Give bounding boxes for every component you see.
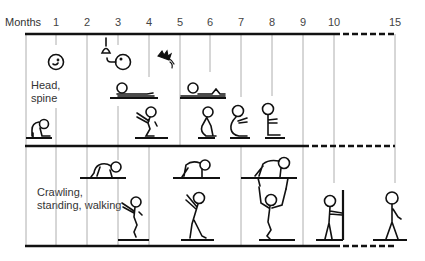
infant-sitting-reaching-icon — [231, 106, 247, 137]
infant-supported-standing-icon — [186, 193, 206, 239]
infant-sitting-supported-icon — [202, 107, 217, 136]
development-diagram — [0, 0, 425, 261]
infant-hands-knees-icon — [255, 158, 290, 178]
toddler-walking-icon — [386, 192, 401, 239]
infant-sitting-upright-icon — [263, 104, 281, 136]
infant-forearm-prone-icon — [117, 83, 154, 96]
infant-creeping-icon — [91, 162, 121, 177]
infant-held-standing-icon — [122, 197, 142, 237]
infant-face-turning-icon — [116, 55, 131, 70]
infant-crawling-icon — [182, 160, 210, 177]
infant-pulled-sit-icon — [137, 107, 157, 136]
infant-standing-at-wall-icon — [325, 196, 343, 240]
infant-extended-prone-icon — [181, 83, 225, 96]
hand-wave-icon — [158, 51, 174, 68]
infant-prone-icon — [32, 120, 50, 139]
infant-face-icon — [49, 55, 64, 70]
infant-standing-holding-icon — [258, 178, 288, 239]
floor-platforms — [26, 98, 407, 240]
rattle-bell-icon — [102, 38, 116, 62]
